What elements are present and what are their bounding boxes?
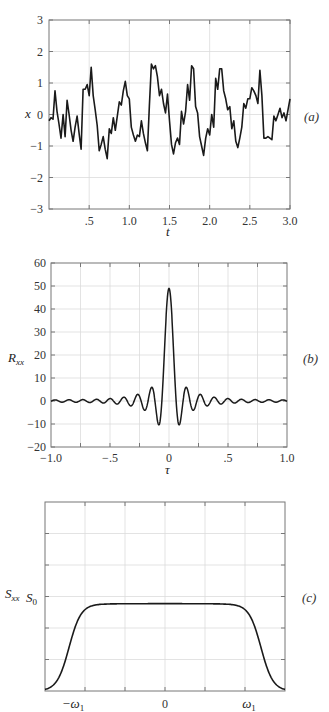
panel-b-grid	[51, 263, 287, 447]
panel-b-ytick-label: 40	[34, 302, 46, 316]
panel-a-xlabel: t	[166, 224, 170, 239]
panel-a-ytick-label: 3	[37, 13, 43, 27]
panel-b-xtick-label: .5	[224, 451, 233, 465]
panel-a-ytick-label: −1	[30, 139, 43, 153]
panel-a-label: (a)	[304, 109, 319, 124]
panel-b-ytick-label: 0	[40, 394, 46, 408]
panel-b-ytick-label: 30	[34, 325, 46, 339]
panel-a-ytick-label: 2	[37, 45, 43, 59]
panel-c-xtick-neg-omega1: −ω1	[62, 696, 84, 712]
panel-a-ytick-label: −3	[30, 202, 43, 216]
panel-b-xtick-label: 1.0	[280, 451, 295, 465]
figure: .51.01.52.02.53.0−3−2−10123 x t (a) −1.0…	[0, 0, 329, 712]
panel-c-s0-label: S0	[26, 590, 38, 607]
panel-b-ytick-label: 20	[34, 348, 46, 362]
panel-a-xtick-label: 3.0	[283, 214, 298, 228]
panel-b-ytick-label: 60	[34, 256, 46, 270]
panel-c-ylabel: Sxx	[5, 586, 20, 603]
panel-a-xtick-label: 2.5	[242, 214, 257, 228]
panel-b-ytick-label: −10	[27, 417, 46, 431]
panel-b-xtick-label: −.5	[102, 451, 118, 465]
panel-b-autocorrelation: −1.0−.50.51.0−20−100102030405060 Rxx τ (…	[7, 256, 318, 477]
panel-a-time-series: .51.01.52.02.53.0−3−2−10123 x t (a)	[24, 13, 319, 239]
panel-a-ylabel: x	[24, 106, 31, 121]
panel-c-label: (c)	[302, 590, 316, 605]
panel-b-ytick-label: −20	[27, 440, 46, 454]
panel-a-xtick-label: 1.0	[122, 214, 137, 228]
panel-a-xtick-label: 2.0	[202, 214, 217, 228]
panel-b-ylabel: Rxx	[7, 350, 24, 367]
panel-c-xtick-pos-omega1: ω1	[242, 696, 256, 712]
panel-c-power-spectrum: Sxx S0 −ω1 0 ω1 (c)	[5, 502, 316, 712]
panel-a-ytick-label: 1	[37, 76, 43, 90]
panel-b-ytick-label: 10	[34, 371, 46, 385]
panel-b-ytick-label: 50	[34, 279, 46, 293]
panel-a-xtick-label: .5	[85, 214, 94, 228]
panel-a-ytick-label: −2	[30, 171, 43, 185]
panel-b-ticks: −1.0−.50.51.0−20−100102030405060	[27, 256, 294, 465]
panel-a-ytick-label: 0	[37, 108, 43, 122]
panel-c-xtick-zero: 0	[162, 697, 168, 711]
panel-c-grid	[45, 502, 285, 691]
panel-b-label: (b)	[303, 351, 318, 366]
